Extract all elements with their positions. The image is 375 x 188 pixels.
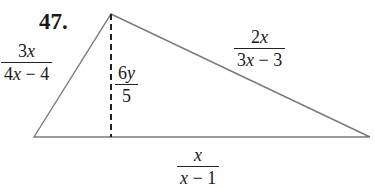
triangle	[34, 14, 370, 137]
height-numerator: 6y	[115, 64, 138, 83]
height-label: 6y 5	[115, 64, 138, 106]
fraction-bar	[115, 84, 138, 85]
left-side-label: 3x 4x − 4	[1, 42, 52, 84]
base-denominator: x − 1	[177, 169, 219, 188]
problem-number: 47.	[39, 9, 68, 35]
fraction-bar	[234, 48, 285, 49]
base-label: x x − 1	[177, 146, 219, 188]
fraction-bar	[177, 166, 219, 167]
left-side-numerator: 3x	[15, 42, 38, 61]
right-side-numerator: 2x	[248, 28, 271, 47]
right-side-denominator: 3x − 3	[234, 51, 285, 70]
height-denominator: 5	[119, 87, 134, 106]
fraction-bar	[1, 62, 52, 63]
right-side-label: 2x 3x − 3	[234, 28, 285, 70]
left-side-denominator: 4x − 4	[1, 65, 52, 84]
triangle-problem-figure: 47. 3x 4x − 4 6y 5 2x 3x − 3 x x − 1	[0, 0, 375, 188]
base-numerator: x	[191, 146, 205, 165]
